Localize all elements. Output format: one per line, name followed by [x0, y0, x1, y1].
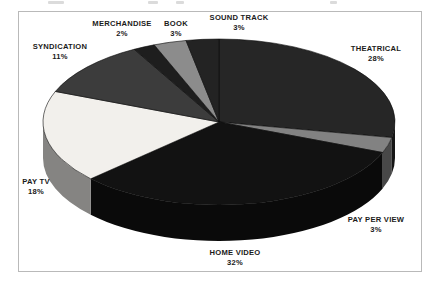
slice-label-theatrical-value: 28%	[330, 54, 422, 64]
slice-label-pay-per-view-name: PAY PER VIEW	[348, 215, 404, 224]
slice-label-book-value: 3%	[156, 29, 196, 39]
slice-label-syndication-name: SYNDICATION	[33, 42, 88, 51]
pie-chart: THEATRICAL 28% PAY PER VIEW 3% HOME VIDE…	[0, 0, 437, 293]
slice-label-pay-per-view-value: 3%	[330, 225, 422, 235]
slice-label-sound-track-value: 3%	[196, 23, 282, 33]
slice-label-merchandise-value: 2%	[76, 29, 168, 39]
slice-label-book: BOOK 3%	[156, 19, 196, 38]
slice-label-home-video-name: HOME VIDEO	[209, 248, 260, 257]
slice-label-merchandise: MERCHANDISE 2%	[76, 19, 168, 38]
slice-label-pay-per-view: PAY PER VIEW 3%	[330, 215, 422, 234]
slice-label-merchandise-name: MERCHANDISE	[92, 19, 151, 28]
chart-screenshot: THEATRICAL 28% PAY PER VIEW 3% HOME VIDE…	[0, 0, 437, 293]
slice-label-home-video: HOME VIDEO 32%	[175, 248, 295, 267]
slice-label-home-video-value: 32%	[175, 258, 295, 268]
slice-label-pay-tv-value: 18%	[8, 187, 64, 197]
pie-top-face	[43, 39, 395, 205]
slice-label-theatrical: THEATRICAL 28%	[330, 44, 422, 63]
slice-label-syndication: SYNDICATION 11%	[14, 42, 106, 61]
slice-label-theatrical-name: THEATRICAL	[351, 44, 401, 53]
slice-label-book-name: BOOK	[164, 19, 188, 28]
slice-label-syndication-value: 11%	[14, 52, 106, 62]
slice-label-pay-tv: PAY TV 18%	[8, 177, 64, 196]
slice-label-pay-tv-name: PAY TV	[22, 177, 50, 186]
slice-label-sound-track: SOUND TRACK 3%	[196, 13, 282, 32]
slice-label-sound-track-name: SOUND TRACK	[210, 13, 269, 22]
